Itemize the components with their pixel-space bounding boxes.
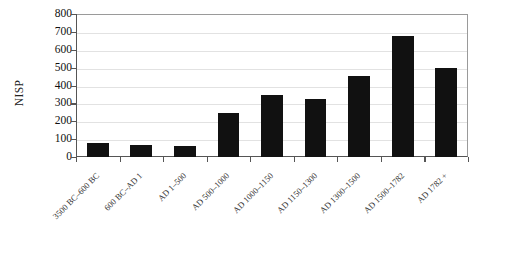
- x-axis-tick-mark: [294, 157, 295, 162]
- x-axis-tick-mark: [250, 157, 251, 162]
- bar-chart: NISP 8007006005004003002001000 3500 BC–6…: [0, 0, 509, 255]
- x-axis-tick-mark: [120, 157, 121, 162]
- x-axis-tick-mark: [76, 157, 77, 162]
- x-axis-tick-mark: [381, 157, 382, 162]
- x-axis-tick-mark: [468, 157, 469, 162]
- x-axis-tick-mark: [424, 157, 425, 162]
- x-axis-tick-mark: [337, 157, 338, 162]
- x-axis-tick-label: 3500 BC–600 BC: [0, 171, 101, 255]
- x-axis: 3500 BC–600 BC600 BC–AD 1AD 1–500AD 500–…: [0, 0, 509, 255]
- x-axis-tick-mark: [207, 157, 208, 162]
- x-axis-tick-mark: [163, 157, 164, 162]
